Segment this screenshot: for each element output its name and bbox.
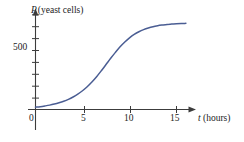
chart-figure: P(yeast cells) t (hours) 500 0 5 10 15	[0, 0, 244, 142]
x-tick-label-0: 0	[29, 114, 34, 124]
x-axis-label-unit: (hours)	[203, 113, 230, 123]
x-tick-label-15: 15	[170, 114, 180, 124]
x-tick-label-5: 5	[81, 114, 86, 124]
y-axis-label-unit: (yeast cells)	[38, 5, 84, 15]
population-growth-curve	[36, 23, 186, 107]
x-axis-label: t (hours)	[198, 114, 230, 124]
y-tick-label-500: 500	[13, 43, 27, 53]
y-axis-label-variable: P	[31, 5, 37, 15]
y-axis-label: P(yeast cells)	[31, 6, 83, 16]
x-axis-label-variable: t	[198, 113, 201, 123]
x-axis-arrow-icon	[189, 107, 197, 113]
x-tick-label-10: 10	[124, 114, 134, 124]
